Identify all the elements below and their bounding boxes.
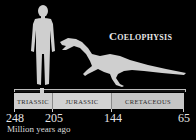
period-cretaceous: CRETACEOUS [111,93,184,109]
period-triassic: TRIASSIC [14,93,52,109]
tick-label-144: 144 [104,111,122,126]
unit-label: Million years ago [7,124,71,134]
coelophysis-silhouette-icon [58,36,188,88]
tick-label-65: 65 [178,111,190,126]
period-jurassic: JURASSIC [52,93,111,109]
species-title: Coelophysis [109,30,172,42]
human-silhouette-icon [30,4,56,86]
